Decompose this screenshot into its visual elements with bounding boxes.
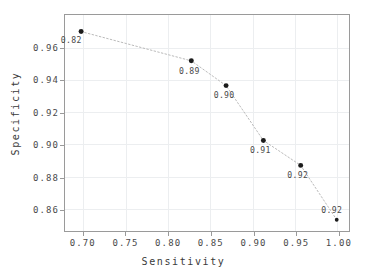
plot-area: 0.820.890.900.910.920.92 — [64, 14, 350, 232]
y-tick-mark — [60, 178, 64, 179]
x-tick-label: 0.85 — [198, 238, 224, 248]
x-tick-label: 1.00 — [326, 238, 352, 248]
x-tick-mark — [339, 232, 340, 236]
y-tick-label: 0.86 — [33, 205, 59, 215]
y-tick-mark — [60, 210, 64, 211]
data-point-marker[interactable] — [298, 163, 303, 168]
x-tick-mark — [254, 232, 255, 236]
x-tick-label: 0.90 — [240, 238, 266, 248]
y-tick-mark — [60, 145, 64, 146]
y-tick-mark — [60, 48, 64, 49]
x-tick-mark — [296, 232, 297, 236]
data-point-label: 0.92 — [287, 170, 308, 180]
series-connector-line — [81, 32, 337, 220]
x-tick-label: 0.75 — [112, 238, 138, 248]
y-tick-mark — [60, 113, 64, 114]
data-point-marker[interactable] — [261, 138, 266, 143]
y-tick-label: 0.90 — [33, 140, 59, 150]
x-tick-mark — [211, 232, 212, 236]
data-point-label: 0.82 — [61, 35, 82, 45]
x-tick-label: 0.70 — [70, 238, 96, 248]
data-point-marker[interactable] — [189, 58, 194, 63]
y-tick-mark — [60, 80, 64, 81]
x-tick-label: 0.80 — [155, 238, 181, 248]
x-tick-mark — [168, 232, 169, 236]
y-axis-label: Specificity — [10, 54, 21, 174]
x-tick-label: 0.95 — [283, 238, 309, 248]
data-point-marker[interactable] — [224, 83, 229, 88]
y-tick-label: 0.88 — [33, 173, 59, 183]
y-tick-label: 0.96 — [33, 43, 59, 53]
x-tick-mark — [83, 232, 84, 236]
data-point-label: 0.89 — [179, 66, 200, 76]
y-tick-label: 0.94 — [33, 75, 59, 85]
data-point-label: 0.91 — [250, 145, 271, 155]
x-tick-mark — [125, 232, 126, 236]
data-point-marker[interactable] — [79, 29, 84, 34]
data-point-label: 0.92 — [321, 205, 342, 215]
data-point-label: 0.90 — [214, 90, 235, 100]
data-series-layer: 0.820.890.900.910.920.92 — [65, 15, 349, 231]
y-tick-label: 0.92 — [33, 108, 59, 118]
data-point-marker[interactable] — [335, 218, 339, 222]
chart-canvas: 0.820.890.900.910.920.92 0.700.750.800.8… — [0, 0, 367, 280]
x-axis-label: Sensitivity — [0, 256, 367, 267]
